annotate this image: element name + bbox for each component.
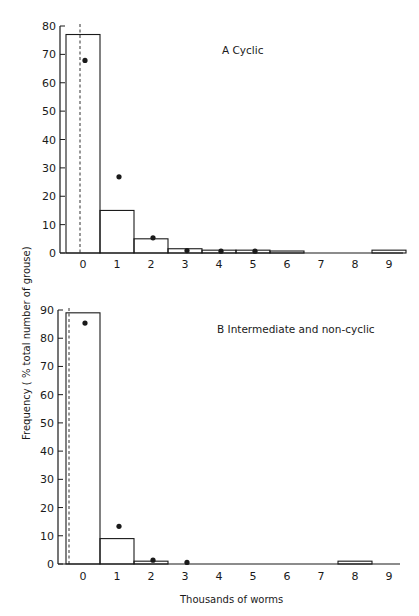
x-tick-label: 1: [114, 570, 121, 583]
y-tick-label: 60: [42, 77, 56, 90]
x-tick-label: 6: [284, 570, 291, 583]
x-tick-label: 3: [182, 258, 189, 271]
y-tick-label: 30: [42, 162, 56, 175]
x-tick-label: 9: [386, 570, 393, 583]
expected-dot: [184, 248, 189, 253]
x-tick-label: 5: [250, 570, 257, 583]
x-tick-label: 7: [318, 570, 325, 583]
expected-dot: [184, 560, 189, 565]
y-tick-label: 20: [40, 502, 54, 515]
x-tick-label: 4: [216, 570, 223, 583]
y-tick-label: 70: [42, 48, 56, 61]
y-tick-label: 80: [42, 20, 56, 33]
y-tick-label: 10: [42, 219, 56, 232]
bar: [372, 250, 406, 253]
y-tick-label: 70: [40, 360, 54, 373]
bar: [100, 210, 134, 253]
x-tick-label: 1: [114, 258, 121, 271]
bar: [338, 561, 372, 564]
x-tick-label: 0: [80, 258, 87, 271]
panel-a-title: A Cyclic: [222, 44, 264, 56]
y-axis-title: Frequency ( % total number of grouse): [21, 246, 32, 440]
y-tick-label: 20: [42, 190, 56, 203]
x-tick-label: 0: [80, 570, 87, 583]
y-tick-label: 60: [40, 389, 54, 402]
expected-dot: [82, 321, 87, 326]
expected-dot: [252, 249, 257, 254]
x-tick-label: 2: [148, 258, 155, 271]
panel-a-cyclic: 010203040506070800123456789: [42, 20, 406, 271]
x-tick-label: 4: [216, 258, 223, 271]
x-tick-label: 9: [386, 258, 393, 271]
bar: [66, 313, 100, 564]
y-tick-label: 40: [42, 134, 56, 147]
bar: [270, 251, 304, 253]
panel-b-title: B Intermediate and non-cyclic: [217, 323, 375, 335]
y-tick-label: 0: [49, 247, 56, 260]
y-tick-label: 80: [40, 332, 54, 345]
y-tick-label: 40: [40, 445, 54, 458]
expected-dot: [218, 249, 223, 254]
expected-dot: [150, 235, 155, 240]
x-tick-label: 2: [148, 570, 155, 583]
y-tick-label: 30: [40, 473, 54, 486]
panel-b-intermediate-non-cyclic: 01020304050607080900123456789: [40, 304, 400, 583]
expected-dot: [116, 174, 121, 179]
y-tick-label: 50: [40, 417, 54, 430]
y-tick-label: 10: [40, 530, 54, 543]
y-tick-label: 50: [42, 105, 56, 118]
expected-dot: [82, 58, 87, 63]
x-tick-label: 8: [352, 570, 359, 583]
x-tick-label: 8: [352, 258, 359, 271]
expected-dot: [150, 558, 155, 563]
bar: [100, 539, 134, 564]
expected-dot: [116, 524, 121, 529]
x-tick-label: 5: [250, 258, 257, 271]
y-tick-label: 90: [40, 304, 54, 317]
x-tick-label: 6: [284, 258, 291, 271]
y-tick-label: 0: [47, 558, 54, 571]
x-tick-label: 7: [318, 258, 325, 271]
figure: 010203040506070800123456789 010203040506…: [0, 0, 419, 616]
x-axis-title: Thousands of worms: [179, 594, 283, 605]
x-tick-label: 3: [182, 570, 189, 583]
bar: [66, 35, 100, 253]
bar: [134, 239, 168, 253]
